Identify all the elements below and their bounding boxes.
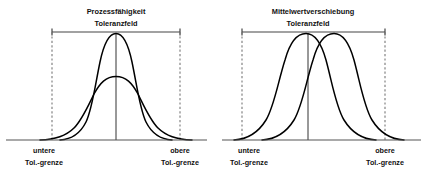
tolerance-span-right xyxy=(242,29,385,36)
tolerance-field-label-left: Toleranzfeld xyxy=(95,19,138,28)
panel-title-mittelwertverschiebung: Mittelwertverschiebung xyxy=(272,7,355,16)
diagram-canvas: Prozessfähigkeit Toleranzfeld untere Tol… xyxy=(0,0,426,174)
process-capability-diagram: Prozessfähigkeit Toleranzfeld untere Tol… xyxy=(0,0,426,174)
panel-prozessfaehigkeit: Prozessfähigkeit Toleranzfeld untere Tol… xyxy=(6,7,207,167)
lower-limit-label-right-line1: untere xyxy=(238,146,260,155)
upper-limit-label-left-line1: obere xyxy=(170,146,190,155)
panel-mittelwertverschiebung: Mittelwertverschiebung Toleranzfeld unte… xyxy=(222,7,421,167)
upper-limit-label-right-line2: Tol.-grenze xyxy=(366,158,404,167)
lower-limit-label-left-line2: Tol.-grenze xyxy=(25,158,63,167)
panel-title-prozessfaehigkeit: Prozessfähigkeit xyxy=(87,7,146,16)
lower-limit-label-left-line1: untere xyxy=(33,146,55,155)
tolerance-field-label-right: Toleranzfeld xyxy=(287,19,330,28)
lower-limit-label-right-line2: Tol.-grenze xyxy=(230,158,268,167)
upper-limit-label-right-line1: obere xyxy=(375,146,395,155)
upper-limit-label-left-line2: Tol.-grenze xyxy=(161,158,199,167)
